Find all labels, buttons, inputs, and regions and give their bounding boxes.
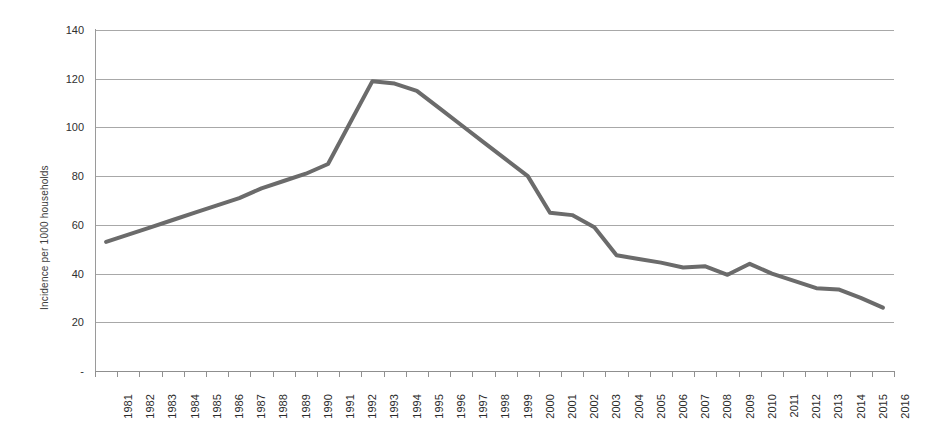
x-tick-label-2008: 2008 — [722, 394, 734, 418]
x-tick-1984 — [162, 371, 163, 377]
x-tick-label-1986: 1986 — [233, 394, 245, 418]
x-tick-label-1990: 1990 — [322, 394, 334, 418]
x-tick-2009 — [716, 371, 717, 377]
x-tick-2016 — [872, 371, 873, 377]
x-tick-1986 — [206, 371, 207, 377]
x-tick-2004 — [605, 371, 606, 377]
x-tick-1985 — [184, 371, 185, 377]
x-tick-1997 — [450, 371, 451, 377]
x-tick-label-1997: 1997 — [477, 394, 489, 418]
x-tick-2001 — [539, 371, 540, 377]
x-tick-label-2015: 2015 — [877, 394, 889, 418]
x-tick-1981 — [95, 371, 96, 377]
x-tick-label-2011: 2011 — [788, 394, 800, 418]
x-tick-1996 — [428, 371, 429, 377]
x-tick-label-1987: 1987 — [255, 394, 267, 418]
x-tick-2007 — [672, 371, 673, 377]
x-tick-label-1982: 1982 — [145, 394, 157, 418]
x-tick-2010 — [739, 371, 740, 377]
x-tick-label-1988: 1988 — [278, 394, 290, 418]
x-tick-1987 — [228, 371, 229, 377]
x-tick-1983 — [139, 371, 140, 377]
x-tick-label-1994: 1994 — [411, 394, 423, 418]
x-tick-2014 — [827, 371, 828, 377]
x-axis-tick-labels: 1981198219831984198519861987198819891990… — [0, 382, 929, 432]
x-tick-1990 — [295, 371, 296, 377]
data-series-layer — [0, 0, 929, 432]
x-axis-ticks — [0, 371, 929, 379]
x-tick-2012 — [783, 371, 784, 377]
x-tick-1988 — [250, 371, 251, 377]
x-tick-1995 — [406, 371, 407, 377]
x-tick-1993 — [361, 371, 362, 377]
x-tick-label-1981: 1981 — [122, 394, 134, 418]
x-tick-label-2010: 2010 — [766, 394, 778, 418]
x-tick-label-1993: 1993 — [389, 394, 401, 418]
x-tick-2011 — [761, 371, 762, 377]
x-tick-label-1998: 1998 — [500, 394, 512, 418]
x-tick-label-1999: 1999 — [522, 394, 534, 418]
x-tick-label-1991: 1991 — [344, 394, 356, 418]
x-tick-label-2013: 2013 — [833, 394, 845, 418]
x-tick-label-1996: 1996 — [455, 394, 467, 418]
x-tick-2000 — [517, 371, 518, 377]
x-tick-label-2005: 2005 — [655, 394, 667, 418]
x-tick-1992 — [339, 371, 340, 377]
x-tick-label-1984: 1984 — [189, 394, 201, 418]
x-tick-label-2012: 2012 — [810, 394, 822, 418]
series-line-incidence — [106, 81, 883, 308]
x-tick-label-2016: 2016 — [899, 394, 911, 418]
x-tick-label-2014: 2014 — [855, 394, 867, 418]
x-tick-label-1992: 1992 — [366, 394, 378, 418]
x-tick-label-2004: 2004 — [633, 394, 645, 418]
x-tick-2005 — [628, 371, 629, 377]
x-tick-2002 — [561, 371, 562, 377]
x-tick-label-1989: 1989 — [300, 394, 312, 418]
x-tick-label-1985: 1985 — [211, 394, 223, 418]
x-tick-label-2009: 2009 — [744, 394, 756, 418]
x-tick-label-1995: 1995 — [433, 394, 445, 418]
x-tick-label-2003: 2003 — [611, 394, 623, 418]
x-tick-label-2006: 2006 — [677, 394, 689, 418]
x-tick-2015 — [850, 371, 851, 377]
x-tick-label-2001: 2001 — [566, 394, 578, 418]
x-tick-2013 — [805, 371, 806, 377]
x-tick-2008 — [694, 371, 695, 377]
x-tick-1989 — [273, 371, 274, 377]
line-chart: Incidence per 1000 households 1401201008… — [0, 0, 929, 432]
x-tick-2003 — [583, 371, 584, 377]
x-tick-label-2007: 2007 — [699, 394, 711, 418]
x-tick-1999 — [495, 371, 496, 377]
x-tick-label-2002: 2002 — [588, 394, 600, 418]
x-tick-1998 — [472, 371, 473, 377]
x-tick-1991 — [317, 371, 318, 377]
x-tick-end — [894, 371, 895, 377]
x-tick-2006 — [650, 371, 651, 377]
x-tick-1994 — [384, 371, 385, 377]
x-tick-label-2000: 2000 — [544, 394, 556, 418]
x-tick-label-1983: 1983 — [167, 394, 179, 418]
x-tick-1982 — [117, 371, 118, 377]
